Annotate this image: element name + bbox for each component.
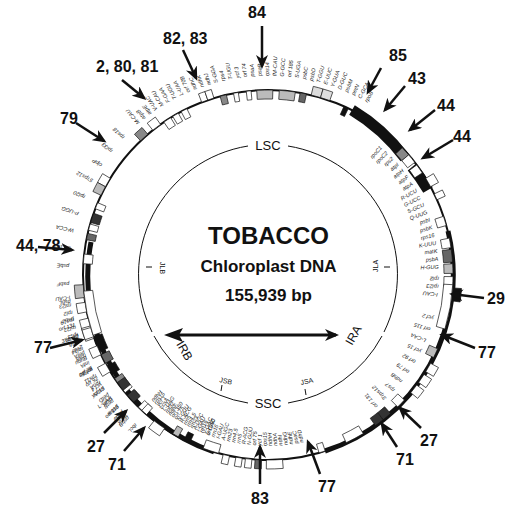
callout-label: 85 xyxy=(389,47,407,65)
callout-arrow xyxy=(76,123,104,141)
gene-label: rps4 xyxy=(218,70,226,82)
genome-title: TOBACCO xyxy=(10,222,517,250)
gene-label: 5'rps12 xyxy=(75,170,94,184)
gene-box xyxy=(221,455,229,465)
gene-label: orf 92 xyxy=(401,353,416,365)
callout-arrow xyxy=(400,408,421,428)
lsc-label: LSC xyxy=(255,138,280,153)
gene-label: fM-CAU xyxy=(271,56,278,76)
gene-label: P-UGG xyxy=(60,205,80,217)
callout-label: 77 xyxy=(34,339,52,357)
gene-label: rpl20 xyxy=(72,189,86,200)
callout-label: 79 xyxy=(60,110,78,128)
genome-subtitle: Chloroplast DNA xyxy=(10,257,517,277)
callout-label: 44 xyxy=(453,128,471,146)
callout-label: 71 xyxy=(108,456,126,474)
gene-label: rps7 xyxy=(383,381,396,393)
callout-label: 82, 83 xyxy=(163,30,207,48)
gene-label: clpP xyxy=(91,157,104,168)
gene-box xyxy=(244,459,252,469)
gene-label: psaA xyxy=(248,64,255,78)
gene-box xyxy=(233,92,239,102)
callout-arrow xyxy=(410,110,435,130)
gene-box xyxy=(257,90,273,99)
ira-label: IRA xyxy=(342,323,364,347)
gene-label: G-GCC xyxy=(279,58,286,77)
gene-box xyxy=(164,118,176,130)
callout-arrow xyxy=(423,140,453,158)
callout-arrow xyxy=(122,80,144,98)
gene-label: orf 79 xyxy=(395,362,410,375)
callout-arrow xyxy=(368,68,381,92)
gene-label: L-CAA xyxy=(409,332,427,344)
callout-arrow xyxy=(442,335,475,348)
gene-label: T-UGU xyxy=(224,62,233,80)
gene-box xyxy=(299,93,307,103)
callout-label: 27 xyxy=(87,438,105,456)
gene-label: orf 115 xyxy=(412,321,431,332)
callout-arrow xyxy=(382,424,397,447)
callout-label: 44, 78 xyxy=(16,237,60,255)
gene-box xyxy=(317,442,326,452)
gene-label: rpl2 xyxy=(63,310,73,318)
callout-label: 44 xyxy=(437,97,455,115)
jsb-label: JSB xyxy=(219,376,233,386)
gene-label: orf 74 xyxy=(241,63,248,78)
gene-box xyxy=(234,457,242,467)
gene-labels: M-CAUatpBatpEV-UACM-CAUF-GAAT-UGUL-UAAor… xyxy=(52,56,439,447)
callout-arrow xyxy=(183,50,196,78)
jsa-label: JSA xyxy=(300,376,314,386)
gene-box xyxy=(220,95,228,105)
gene-label: ycf 3 xyxy=(233,65,241,79)
gene-box xyxy=(246,91,252,100)
gene-box xyxy=(134,127,147,140)
gene-box xyxy=(279,90,296,101)
gene-box xyxy=(266,459,283,469)
ssc-label: SSC xyxy=(255,396,282,411)
callout-label: 84 xyxy=(248,4,266,22)
callout-label: 2, 80, 81 xyxy=(96,58,158,76)
callout-label: 29 xyxy=(487,290,505,308)
callout-arrow xyxy=(385,86,405,110)
gene-label: rps14 xyxy=(264,62,270,76)
gene-box xyxy=(340,106,348,116)
gene-label: rps18 xyxy=(111,126,126,141)
gene-label: rbcL xyxy=(127,422,139,434)
gene-label: ndhB xyxy=(389,371,403,384)
callout-label: 27 xyxy=(420,432,438,450)
gene-box xyxy=(147,117,160,130)
gene-label: rpl33 xyxy=(100,141,114,154)
chloroplast-genome-map: LSC SSC IRB IRA JLB JLA JSB JSA M-CAUatp… xyxy=(0,0,517,508)
genome-size: 155,939 bp xyxy=(10,286,517,306)
callout-label: 43 xyxy=(408,70,426,88)
gene-label: ycf 15 xyxy=(405,342,423,355)
gene-box xyxy=(95,203,106,212)
callout-label: 71 xyxy=(396,451,414,469)
callout-label: 83 xyxy=(251,490,269,508)
callout-label: 77 xyxy=(318,478,336,496)
gene-label: ycf 2 xyxy=(421,313,435,322)
irb-label: IRB xyxy=(173,339,195,363)
callout-label: 77 xyxy=(478,344,496,362)
